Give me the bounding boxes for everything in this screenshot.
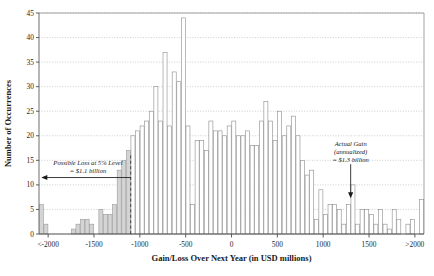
histogram-bar — [186, 126, 190, 234]
y-tick-label: 15 — [27, 156, 35, 165]
x-tick-label: 500 — [272, 240, 283, 249]
x-tick-label: -500 — [179, 240, 193, 249]
actual-gain-annotation-line: (annualized) — [334, 148, 367, 156]
x-tick-label: -1000 — [131, 240, 149, 249]
histogram-bar — [369, 214, 373, 234]
y-tick-label: 25 — [27, 107, 35, 116]
histogram-bar — [333, 205, 337, 234]
histogram-bar — [168, 126, 172, 234]
y-tick-label: 0 — [30, 230, 34, 239]
histogram-bar — [209, 121, 213, 234]
histogram-bar — [397, 219, 401, 234]
histogram-bar — [126, 151, 130, 234]
histogram-bar — [319, 190, 323, 234]
histogram-bar — [301, 160, 305, 234]
histogram-bar — [90, 224, 94, 234]
histogram-bar — [172, 72, 176, 234]
y-tick-label: 35 — [27, 58, 35, 67]
possible-loss-arrow-head — [41, 175, 47, 180]
histogram-bar — [158, 121, 162, 234]
histogram-bar — [108, 214, 112, 234]
histogram-bar — [392, 209, 396, 234]
histogram-bar — [411, 219, 415, 234]
actual-gain-annotation-line: Actual Gain — [334, 140, 368, 147]
histogram-bar — [259, 121, 263, 234]
histogram-bar — [296, 136, 300, 234]
y-tick-label: 10 — [27, 180, 35, 189]
histogram-bar — [122, 160, 126, 234]
histogram-bar — [264, 101, 268, 234]
histogram-bar — [140, 126, 144, 234]
histogram-bar — [227, 126, 231, 234]
x-tick-label: 1500 — [362, 240, 377, 249]
y-tick-label: 45 — [27, 9, 35, 18]
x-tick-label: -1500 — [85, 240, 103, 249]
histogram-bar — [273, 141, 277, 234]
histogram-bar — [346, 205, 350, 234]
histogram-bar — [250, 146, 254, 234]
histogram-bar — [268, 121, 272, 234]
histogram-bar — [278, 111, 282, 234]
histogram-bar — [291, 116, 295, 234]
histogram-bar — [420, 200, 424, 234]
histogram-bar — [223, 136, 227, 234]
histogram-bar — [388, 229, 392, 234]
histogram-bar — [39, 205, 43, 234]
histogram-bar — [131, 136, 135, 234]
histogram-bar — [305, 175, 309, 234]
histogram-bar — [246, 131, 250, 234]
histogram-bar — [191, 205, 195, 234]
histogram-bar — [342, 224, 346, 234]
x-tick-label: 1000 — [316, 240, 331, 249]
histogram-bar — [356, 224, 360, 234]
histogram-bar — [85, 219, 89, 234]
histogram-bar — [149, 111, 153, 234]
histogram-bar — [204, 151, 208, 234]
histogram-bar — [282, 136, 286, 234]
histogram-bar — [323, 214, 327, 234]
histogram-bar — [374, 224, 378, 234]
histogram-bar — [383, 224, 387, 234]
histogram-figure: 051015202530354045<-2000-1500-1000-50005… — [0, 0, 434, 276]
y-axis-title: Number of Occurrences — [3, 79, 13, 167]
chart-canvas: 051015202530354045<-2000-1500-1000-50005… — [0, 0, 434, 276]
histogram-bar — [71, 229, 75, 234]
histogram-bar — [145, 121, 149, 234]
histogram-bar — [200, 141, 204, 234]
possible-loss-annotation-line: Possible Loss at 5% Level — [52, 159, 122, 166]
histogram-bar — [213, 131, 217, 234]
histogram-bar — [81, 219, 85, 234]
histogram-bar — [314, 219, 318, 234]
histogram-bar — [195, 141, 199, 234]
x-tick-label: <-2000 — [37, 240, 59, 249]
histogram-bar — [113, 205, 117, 234]
x-axis-title: Gain/Loss Over Next Year (in USD million… — [152, 253, 312, 263]
y-tick-label: 5 — [30, 205, 34, 214]
histogram-bar — [103, 214, 107, 234]
histogram-bar — [236, 136, 240, 234]
histogram-bar — [218, 131, 222, 234]
histogram-bar — [136, 131, 140, 234]
histogram-bar — [99, 209, 103, 234]
y-tick-label: 20 — [27, 131, 35, 140]
histogram-bar — [378, 209, 382, 234]
histogram-bar — [365, 209, 369, 234]
histogram-bar — [177, 82, 181, 234]
histogram-bar — [328, 205, 332, 234]
histogram-bar — [232, 121, 236, 234]
y-tick-label: 30 — [27, 82, 35, 91]
histogram-bar — [163, 52, 167, 234]
histogram-bar — [241, 136, 245, 234]
histogram-bar — [255, 146, 259, 234]
histogram-bar — [154, 87, 158, 234]
histogram-bar — [406, 224, 410, 234]
histogram-bar — [44, 224, 48, 234]
histogram-bar — [337, 209, 341, 234]
histogram-bar — [181, 18, 185, 234]
y-tick-label: 40 — [27, 33, 35, 42]
possible-loss-annotation-line: = $1.1 billion — [70, 167, 107, 174]
histogram-bar — [310, 170, 314, 234]
x-tick-label: >2000 — [405, 240, 424, 249]
histogram-bar — [76, 224, 80, 234]
actual-gain-annotation-line: = $1.3 billion — [332, 156, 369, 163]
